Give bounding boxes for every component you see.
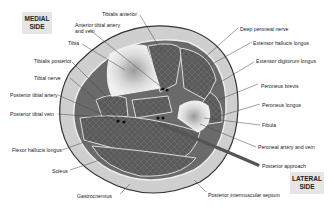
label-posterior-approach: Posterior approach <box>262 163 306 169</box>
label-anterior-tibial-artery: Anterior tibial artery and vein <box>75 22 125 34</box>
label-peroneus-longus: Peroneus longus <box>262 102 301 108</box>
label-tibialis-posterior: Tibialis posterior <box>34 58 72 64</box>
label-flexor-hallucis-longus: Flexor hallucis longus <box>12 147 62 153</box>
label-deep-peroneal-nerve: Deep peroneal nerve <box>240 26 288 32</box>
label-posterior-tibial-artery: Posterior tibial artery <box>10 92 58 98</box>
label-soleus: Soleus <box>52 168 68 174</box>
label-tibial-nerve: Tibial nerve <box>34 75 61 81</box>
label-peroneal-artery: Peroneal artery and vein <box>258 144 315 150</box>
label-tibialis-anterior: Tibialis anterior <box>102 11 137 17</box>
label-tibia: Tibia <box>68 40 79 46</box>
label-peroneus-brevis: Peroneus brevis <box>261 83 299 89</box>
label-gastrocnemius: Gastrocnemius <box>77 193 112 199</box>
label-posterior-intermuscular-septum: Posterior intermuscular septum <box>208 192 280 198</box>
medial-side-label: MEDIAL SIDE <box>22 12 52 34</box>
label-extensor-hallucis-longus: Extensor hallucis longus <box>253 40 309 46</box>
label-posterior-tibial-vein: Posterior tibial vein <box>10 111 54 117</box>
lateral-side-label: LATERAL SIDE <box>290 172 324 194</box>
label-fibula: Fibula <box>262 122 276 128</box>
label-extensor-digitorum-longus: Extensor digitorum longus <box>256 58 316 64</box>
